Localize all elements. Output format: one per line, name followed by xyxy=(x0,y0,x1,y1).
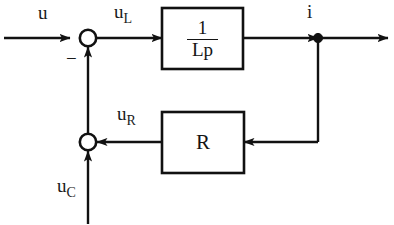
label-capacitor-voltage: uC xyxy=(57,176,76,195)
inductor-block-label: 1 Lp xyxy=(162,8,243,69)
resistor-block-label: R xyxy=(162,112,244,173)
upper-sum-junction xyxy=(80,30,96,46)
label-input-u: u xyxy=(38,3,48,22)
current-node-dot xyxy=(313,33,322,42)
label-inductor-voltage: uL xyxy=(114,2,132,21)
inductor-block-denominator: Lp xyxy=(187,39,218,60)
inductor-block-numerator: 1 xyxy=(187,18,218,38)
label-resistor-voltage: uR xyxy=(117,104,136,123)
lower-sum-junction xyxy=(80,134,96,150)
minus-sign-label: − xyxy=(66,48,77,70)
label-current: i xyxy=(307,2,312,21)
block-diagram-canvas: u uL uR uC i − 1 Lp R xyxy=(0,0,394,225)
